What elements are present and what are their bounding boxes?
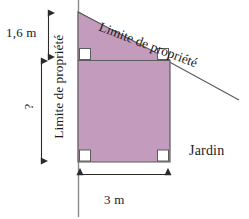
right-angle-marker-bottom-left (80, 150, 91, 161)
dimension-label-base-width: 3 m (104, 193, 124, 206)
right-angle-marker-bottom-right (158, 150, 169, 161)
right-angle-marker-top-left (80, 49, 91, 60)
garden-label: Jardin (189, 144, 224, 158)
geometry-diagram: 1,6 m ? 3 m Jardin Limite de propriété L… (0, 0, 249, 219)
boundary-label-vertical: Limite de propriété (52, 25, 66, 149)
dimension-label-unknown-height: ? (22, 104, 35, 110)
dimension-label-top-height: 1,6 m (6, 26, 37, 39)
